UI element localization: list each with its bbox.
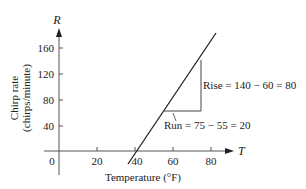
- x-tick-80: 80: [206, 155, 218, 167]
- y-axis-arrow-icon: [56, 28, 62, 37]
- x-tick-60: 60: [168, 155, 180, 167]
- y-axis-title-line1: Chirp rate: [8, 76, 20, 120]
- y-tick-160: 160: [38, 42, 55, 54]
- rise-annotation: Rise = 140 − 60 = 80: [203, 79, 297, 91]
- y-tick-120: 120: [38, 68, 55, 80]
- y-tick-40: 40: [43, 120, 55, 132]
- y-axis-symbol: R: [52, 13, 61, 27]
- y-ticks: [59, 48, 63, 126]
- x-axis-symbol: T: [238, 144, 246, 158]
- chart: 160 120 80 40 0 20 40 60 80 R T Chirp ra…: [0, 0, 306, 189]
- run-annotation: Run = 75 − 55 = 20: [164, 119, 251, 131]
- x-ticks: [97, 147, 211, 151]
- data-line: [128, 33, 216, 164]
- y-tick-80: 80: [43, 94, 55, 106]
- y-axis-title-line2: (chirps/minute): [20, 64, 33, 132]
- x-axis-arrow-icon: [225, 148, 234, 154]
- axes: [44, 28, 234, 175]
- x-tick-20: 20: [92, 155, 104, 167]
- x-tick-0: 0: [49, 155, 55, 167]
- x-axis-title: Temperature (°F): [105, 171, 181, 184]
